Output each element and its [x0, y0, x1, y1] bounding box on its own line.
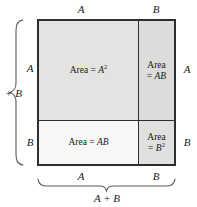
right-label-b: B [180, 136, 194, 148]
equals-bottom-right: = [148, 143, 156, 153]
left-label-b: B [23, 136, 37, 148]
left-total-label: + B [0, 87, 22, 99]
bottom-total-label: A + B [57, 192, 157, 204]
region-a-squared-text: Area = A2 [70, 65, 108, 76]
top-label-a: A [72, 3, 90, 15]
bottom-brace [37, 178, 176, 192]
region-b-squared-text: Area = B2 [147, 132, 165, 153]
variables-ab-top: AB [155, 71, 167, 81]
exponent-two-b: 2 [162, 140, 165, 147]
area-model-figure: A B + B A B Area = A2 Area = AB Area = A… [0, 0, 197, 207]
exponent-two-a: 2 [104, 63, 107, 70]
region-b-squared: Area = B2 [139, 121, 174, 164]
area-word-top-right: Area [147, 60, 165, 70]
area-prefix-a-squared: Area = [70, 65, 99, 75]
right-label-a: A [180, 63, 194, 75]
variables-ab-bottom: AB [97, 137, 109, 147]
region-a-squared: Area = A2 [39, 21, 139, 121]
equals-top-right: = [147, 71, 155, 81]
region-ab-top-text: Area = AB [147, 60, 166, 81]
area-prefix-ab-bottom: Area = [68, 137, 97, 147]
region-ab-bottom: Area = AB [39, 121, 139, 164]
left-label-a: A [23, 62, 37, 74]
outer-square: Area = A2 Area = AB Area = AB Area = B2 [37, 19, 176, 166]
region-ab-bottom-text: Area = AB [68, 137, 108, 148]
region-ab-top: Area = AB [139, 21, 174, 121]
top-label-b: B [147, 3, 165, 15]
